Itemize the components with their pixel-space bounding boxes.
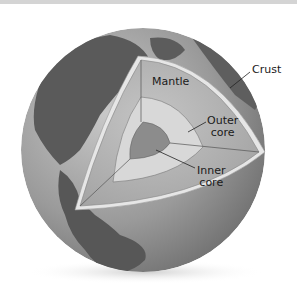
- earth-diagram: [0, 0, 297, 283]
- inner-core-label: Inner core: [197, 165, 225, 189]
- crust-label: Crust: [252, 64, 281, 76]
- mantle-label: Mantle: [152, 76, 189, 88]
- outer-core-label: Outer core: [207, 115, 238, 139]
